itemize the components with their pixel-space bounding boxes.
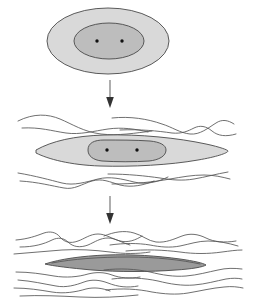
deformation-figure <box>0 0 257 302</box>
stage-2-nucleus-dot <box>105 148 108 151</box>
stage-2-nucleus-dot <box>135 148 138 151</box>
stage-1-nucleus-dot <box>95 39 98 42</box>
stage-1-nucleus-dot <box>120 39 123 42</box>
flow-line-above <box>20 238 130 247</box>
flow-line-below <box>112 278 242 285</box>
flow-line-above <box>18 115 152 135</box>
flow-line-above <box>112 117 234 134</box>
flow-line-below <box>108 172 228 180</box>
figure-canvas <box>0 0 257 302</box>
stage-2-inner-region <box>88 140 166 162</box>
stage-2-group <box>18 115 236 188</box>
stage-1-inner-ellipse <box>74 23 144 59</box>
flow-line-above <box>104 232 236 243</box>
arrow-head-icon <box>106 97 114 108</box>
stage-1-group <box>47 8 169 74</box>
flow-line-above <box>22 128 148 134</box>
flow-line-below <box>18 280 138 287</box>
flow-line-above <box>110 241 238 247</box>
flow-line-below <box>20 295 138 297</box>
arrow-2-group <box>106 196 114 224</box>
flow-line-below <box>16 272 140 278</box>
flow-line-below <box>14 288 110 293</box>
flow-line-below <box>20 180 154 188</box>
flow-line-above <box>16 232 142 242</box>
stage-3-group <box>14 232 243 298</box>
arrow-1-group <box>106 80 114 108</box>
flow-line-below <box>106 287 243 295</box>
arrow-head-icon <box>106 213 114 224</box>
